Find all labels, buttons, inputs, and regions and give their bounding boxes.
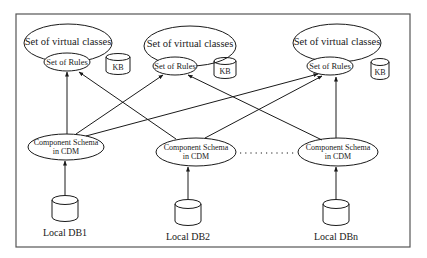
virtual-classes-label-2: Set of virtual classes bbox=[144, 39, 236, 50]
arrow-cs1-to-rules3 bbox=[86, 74, 318, 136]
database-cylinder-icon-2 bbox=[175, 200, 201, 226]
component-schema-subtitle-n: in CDM bbox=[298, 152, 378, 161]
component-schema-label-2: Component Schema in CDM bbox=[156, 143, 236, 161]
arrow-cs2-to-rules1 bbox=[79, 72, 176, 139]
component-schema-title-1: Component Schema bbox=[28, 138, 104, 147]
rules-label-2: Set of Rules bbox=[153, 62, 197, 71]
component-schema-subtitle-1: in CDM bbox=[28, 147, 104, 156]
database-cylinder-icon-n bbox=[323, 200, 349, 226]
virtual-classes-label-3: Set of virtual classes bbox=[293, 37, 381, 48]
local-db-label-n: Local DBn bbox=[301, 232, 371, 242]
component-schema-title-n: Component Schema bbox=[298, 143, 378, 152]
kb-label-2: KB bbox=[214, 68, 236, 76]
arrow-cs1-to-rules2 bbox=[76, 75, 163, 134]
rules-label-1: Set of Rules bbox=[44, 58, 90, 67]
local-db-label-1: Local DB1 bbox=[30, 228, 100, 238]
kb-label-1: KB bbox=[106, 64, 130, 72]
arrow-csn-to-rules2 bbox=[188, 75, 322, 140]
component-schema-label-1: Component Schema in CDM bbox=[28, 138, 104, 156]
component-schema-label-n: Component Schema in CDM bbox=[298, 143, 378, 161]
rules-label-3: Set of Rules bbox=[307, 62, 353, 71]
local-db-label-2: Local DB2 bbox=[153, 232, 223, 242]
component-schema-subtitle-2: in CDM bbox=[156, 152, 236, 161]
virtual-classes-label-1: Set of virtual classes bbox=[24, 37, 112, 48]
database-cylinder-icon-1 bbox=[52, 196, 78, 222]
kb-label-3: KB bbox=[371, 69, 389, 77]
component-schema-title-2: Component Schema bbox=[156, 143, 236, 152]
arrow-cs2-to-rules3 bbox=[205, 76, 322, 138]
